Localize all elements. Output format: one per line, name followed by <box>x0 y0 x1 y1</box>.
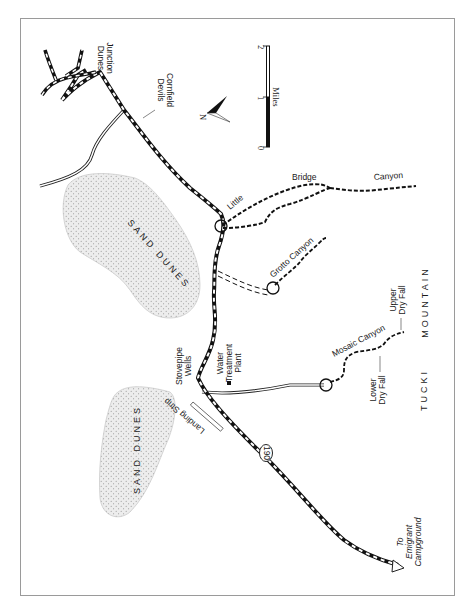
label-grotto-canyon: Grotto Canyon <box>268 235 316 280</box>
label-little: Little <box>225 192 245 211</box>
highway-number-label: 190 <box>262 446 272 460</box>
scale-tick-2: 2 <box>256 45 266 49</box>
label-mosaic-canyon: Mosaic Canyon <box>330 322 387 358</box>
mosaic-canyon-road <box>202 385 324 393</box>
label-dunes-junction: Dunes Junction <box>96 42 115 74</box>
label-tucki: TUCKI <box>419 369 429 411</box>
highway-190-shield: 190 <box>260 445 273 462</box>
grotto-trailhead-icon <box>267 282 279 294</box>
label-stovepipe-wells: Stovepipe Wells <box>174 347 193 385</box>
label-emigrant-campground: To Emigrant Campground <box>395 517 423 566</box>
label-upper-dry-fall: Upper Dry Fall <box>388 285 407 314</box>
svg-text:Junction: Junction <box>105 42 115 74</box>
little-bridge-canyon-trail <box>223 184 416 228</box>
svg-text:Wells: Wells <box>183 356 193 377</box>
label-lower-dry-fall: Lower Dry Fall <box>368 375 387 404</box>
svg-text:Cornfield: Cornfield <box>165 73 175 107</box>
svg-text:Dry Fall: Dry Fall <box>397 285 407 314</box>
emigrant-arrow-icon <box>392 560 404 572</box>
svg-text:Devils: Devils <box>156 78 166 101</box>
sand-dunes-north-area <box>63 174 200 318</box>
label-canyon: Canyon <box>373 170 403 182</box>
svg-text:Campground: Campground <box>413 517 423 566</box>
scale-tick-1: 1 <box>256 96 266 100</box>
trail-map: 190 N 2 1 0 Miles Dunes Junction Devils … <box>0 0 472 610</box>
label-sand-dunes-south: SAND DUNES <box>132 405 142 494</box>
label-water-treatment-plant: Water Treatment Plant <box>215 343 243 382</box>
north-label: N <box>198 114 208 120</box>
svg-text:Dunes: Dunes <box>96 46 106 71</box>
devils-cornfield-leader <box>143 110 155 118</box>
scale-bar: 2 1 0 Miles <box>256 45 281 150</box>
scale-unit-label: Miles <box>271 87 281 106</box>
label-bridge: Bridge <box>292 172 317 182</box>
grotto-canyon-road <box>218 271 268 295</box>
north-arrow-icon: N <box>198 96 230 122</box>
svg-text:Dry Fall: Dry Fall <box>377 375 387 404</box>
svg-text:Plant: Plant <box>233 353 243 373</box>
scale-tick-0: 0 <box>256 146 266 150</box>
label-mountain: MOUNTAIN <box>420 266 430 337</box>
label-devils-cornfield: Devils Cornfield <box>156 73 175 107</box>
